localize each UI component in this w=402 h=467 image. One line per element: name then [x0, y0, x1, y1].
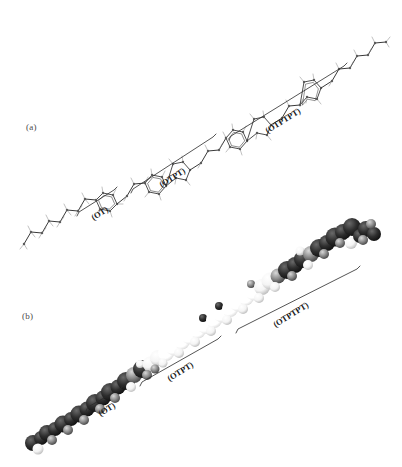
linker-2 — [190, 132, 227, 170]
aromatic-ring-4 — [225, 124, 248, 155]
panel-a-ball-stick-model — [20, 37, 390, 249]
aromatic-ring-6 — [299, 74, 322, 106]
panel-b-space-filling-model — [25, 218, 381, 455]
bracket-otptpt-a — [229, 63, 347, 140]
cpk-dark-left — [25, 380, 126, 455]
panel-label-b: (b) — [22, 311, 33, 321]
cpk-dark-right — [278, 218, 381, 281]
alkyl-chain-right — [321, 37, 390, 88]
alkyl-chain-left — [20, 193, 96, 249]
molecular-figure — [0, 0, 402, 467]
cpk-bright-middle — [166, 269, 286, 359]
panel-label-a: (a) — [26, 122, 37, 132]
panel-a-brackets — [77, 63, 347, 216]
